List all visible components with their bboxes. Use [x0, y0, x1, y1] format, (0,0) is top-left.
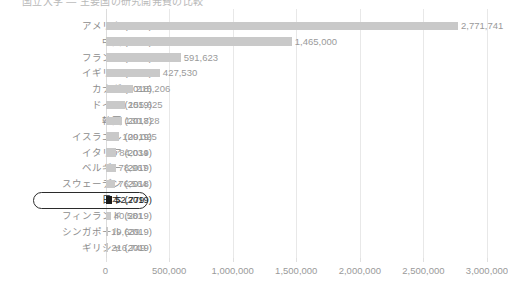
bar-value-label: 109,025 [122, 129, 156, 145]
bar[interactable] [106, 37, 292, 45]
bar-row[interactable]: ベルギー (2019)78,967 [0, 160, 507, 176]
bar-row[interactable]: スウェーデン (2018)76,564 [0, 176, 507, 192]
bar-value-label: 84,034 [119, 145, 148, 161]
x-tick-2000000 [360, 258, 361, 262]
bar-row[interactable]: フィンランド (2019)40,581 [0, 208, 507, 224]
bar-value-label: 40,581 [114, 208, 143, 224]
bar[interactable] [106, 22, 458, 30]
bar[interactable] [106, 180, 116, 188]
bar-value-label: 1,465,000 [295, 34, 337, 50]
bar-value-label: 52,779 [115, 192, 144, 208]
x-tick-label-3000000: 3,000,000 [466, 265, 508, 276]
bar[interactable] [106, 101, 126, 109]
bar-value-label: 78,967 [119, 160, 148, 176]
x-tick-500000 [169, 258, 170, 262]
x-tick-label-1000000: 1,000,000 [212, 265, 254, 276]
bar-row[interactable]: 韓国 (2018)130,728 [0, 113, 507, 129]
bar-row[interactable]: ギリシャ (2019)216,749 [0, 240, 507, 256]
bar-value-label: 215,206 [136, 81, 170, 97]
bar-row[interactable]: シンガポール (2019)19,639 [0, 224, 507, 240]
bar-value-label: 427,530 [163, 65, 197, 81]
x-tick-label-2000000: 2,000,000 [339, 265, 381, 276]
bar[interactable] [106, 243, 109, 251]
chart-title-text: 国立大学 ― 主要国の研究開発費の比較 [22, 0, 203, 7]
bar[interactable] [106, 196, 113, 204]
bar-row[interactable]: ドイツ (2019)155,625 [0, 97, 507, 113]
bar[interactable] [106, 69, 160, 77]
bar[interactable] [106, 85, 133, 93]
x-tick-0 [106, 258, 107, 262]
bar-value-label: 216,749 [111, 240, 145, 256]
x-tick-label-0: 0 [103, 265, 108, 276]
bar[interactable] [106, 132, 120, 140]
bar-rows: アメリカ (2018)2,771,741中国 (2019)1,465,000フラ… [0, 9, 507, 258]
x-axis: 0500,0001,000,0001,500,0002,000,0002,500… [0, 258, 507, 291]
x-tick-1000000 [233, 258, 234, 262]
plot-area: アメリカ (2018)2,771,741中国 (2019)1,465,000フラ… [0, 9, 507, 258]
bar-row[interactable]: イスラエル (2019)109,025 [0, 129, 507, 145]
bar-row[interactable]: フランス (2018)591,623 [0, 50, 507, 66]
x-tick-1500000 [296, 258, 297, 262]
bar-value-label: 76,564 [118, 176, 147, 192]
bar-row[interactable]: アメリカ (2018)2,771,741 [0, 18, 507, 34]
bar-value-label: 19,639 [111, 224, 140, 240]
x-tick-label-500000: 500,000 [152, 265, 186, 276]
bar[interactable] [106, 227, 109, 235]
bar-row[interactable]: イギリス (2019)427,530 [0, 65, 507, 81]
bar[interactable] [106, 212, 111, 220]
x-tick-label-1500000: 1,500,000 [275, 265, 317, 276]
bar[interactable] [106, 53, 181, 61]
x-tick-label-2500000: 2,500,000 [402, 265, 444, 276]
bar[interactable] [106, 148, 117, 156]
bar-value-label: 2,771,741 [461, 18, 503, 34]
bar-row[interactable]: イタリア (2019)84,034 [0, 145, 507, 161]
bar-value-label: 155,625 [128, 97, 162, 113]
bar-value-label: 591,623 [184, 50, 218, 66]
bar-row[interactable]: カナダ (2018)215,206 [0, 81, 507, 97]
bar-value-label: 130,728 [125, 113, 159, 129]
bar[interactable] [106, 117, 123, 125]
bar-row[interactable]: 中国 (2019)1,465,000 [0, 34, 507, 50]
x-tick-2500000 [423, 258, 424, 262]
bar[interactable] [106, 164, 116, 172]
chart-title-cropped: 国立大学 ― 主要国の研究開発費の比較 [0, 0, 507, 7]
bar-row[interactable]: 日本 (2019)52,779 [0, 192, 507, 208]
x-tick-3000000 [487, 258, 488, 262]
